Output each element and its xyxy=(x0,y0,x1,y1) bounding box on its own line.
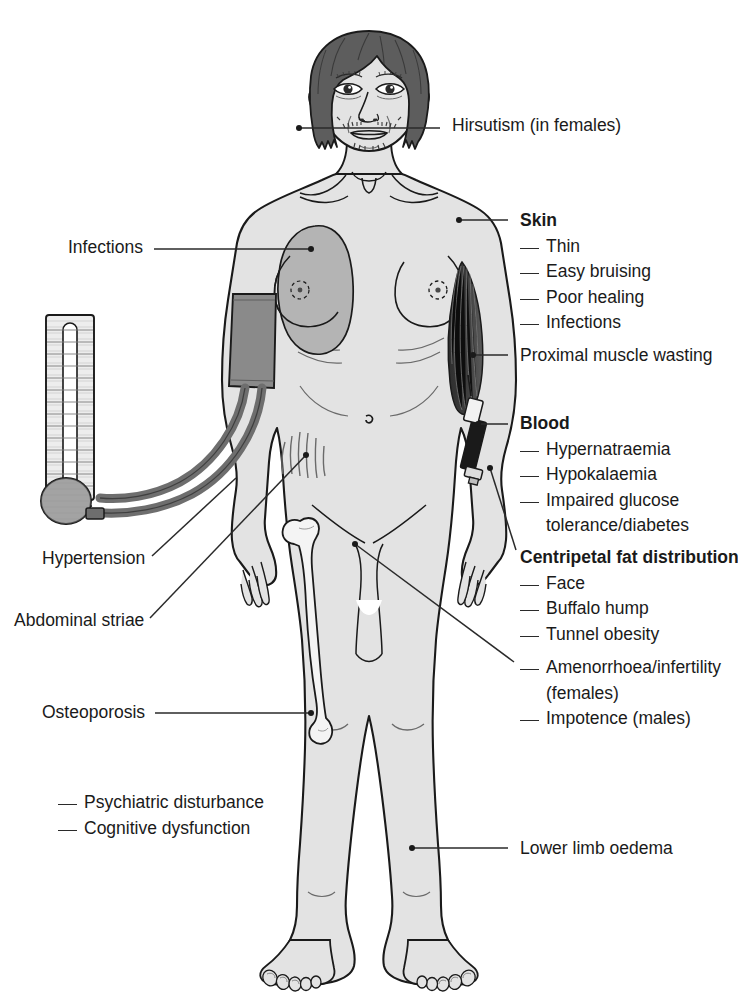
blood-pressure-cuff xyxy=(229,294,276,388)
dash-icon xyxy=(58,830,77,831)
label-hypertension-text: Hypertension xyxy=(42,548,145,568)
label-blood-item-3: tolerance/diabetes xyxy=(520,513,689,539)
body-outline xyxy=(222,35,516,985)
label-centripetal-fat-item-2: Tunnel obesity xyxy=(520,622,738,648)
feet xyxy=(260,940,478,992)
label-blood-item-1: Hypokalaemia xyxy=(520,462,689,488)
label-amenorrhoea-item-1: (females) xyxy=(520,681,721,707)
dash-icon xyxy=(520,502,539,503)
label-group-blood: Blood Hypernatraemia Hypokalaemia Impair… xyxy=(520,411,689,539)
label-hypertension: Hypertension xyxy=(42,546,145,571)
label-lower-limb-oedema-text: Lower limb oedema xyxy=(520,838,673,858)
label-neuropsychiatric-item-1: Cognitive dysfunction xyxy=(58,816,264,842)
label-group-amenorrhoea-impotence: Amenorrhoea/infertility (females) Impote… xyxy=(520,655,721,732)
dash-icon xyxy=(520,720,539,721)
label-group-neuropsychiatric: Psychiatric disturbance Cognitive dysfun… xyxy=(58,790,264,841)
label-hirsutism-text: Hirsutism (in females) xyxy=(452,115,621,135)
dash-icon xyxy=(520,299,539,300)
label-osteoporosis-text: Osteoporosis xyxy=(42,702,145,722)
label-hirsutism: Hirsutism (in females) xyxy=(452,113,621,138)
diagram-page: Hirsutism (in females) Skin Thin Easy br… xyxy=(0,0,738,1006)
dash-icon xyxy=(520,669,539,670)
dash-icon xyxy=(520,248,539,249)
label-skin-item-3: Infections xyxy=(520,310,651,336)
label-centripetal-fat-item-1: Buffalo hump xyxy=(520,596,738,622)
label-proximal-muscle-wasting-text: Proximal muscle wasting xyxy=(520,345,713,365)
label-centripetal-fat-item-0: Face xyxy=(520,571,738,597)
label-blood-item-2: Impaired glucose xyxy=(520,488,689,514)
label-osteoporosis: Osteoporosis xyxy=(42,700,145,725)
label-neuropsychiatric-item-0: Psychiatric disturbance xyxy=(58,790,264,816)
label-lower-limb-oedema: Lower limb oedema xyxy=(520,836,673,861)
dash-icon xyxy=(520,273,539,274)
dash-icon xyxy=(520,451,539,452)
dash-icon xyxy=(520,324,539,325)
label-blood-item-0: Hypernatraemia xyxy=(520,437,689,463)
dash-icon xyxy=(520,476,539,477)
dash-icon xyxy=(58,804,77,805)
dash-icon xyxy=(520,585,539,586)
label-abdominal-striae-text: Abdominal striae xyxy=(14,610,144,630)
label-skin-item-2: Poor healing xyxy=(520,285,651,311)
label-abdominal-striae: Abdominal striae xyxy=(14,608,144,633)
label-infections-text: Infections xyxy=(68,237,143,257)
label-skin-item-0: Thin xyxy=(520,234,651,260)
dash-icon xyxy=(520,636,539,637)
label-centripetal-fat-heading: Centripetal fat distribution xyxy=(520,545,738,571)
label-skin-heading: Skin xyxy=(520,208,651,234)
label-amenorrhoea-item-2: Impotence (males) xyxy=(520,706,721,732)
label-blood-heading: Blood xyxy=(520,411,689,437)
label-group-skin: Skin Thin Easy bruising Poor healing Inf… xyxy=(520,208,651,336)
label-amenorrhoea-item-0: Amenorrhoea/infertility xyxy=(520,655,721,681)
label-skin-item-1: Easy bruising xyxy=(520,259,651,285)
label-proximal-muscle-wasting: Proximal muscle wasting xyxy=(520,343,713,368)
dash-icon xyxy=(520,610,539,611)
label-group-centripetal-fat-distribution: Centripetal fat distribution Face Buffal… xyxy=(520,545,738,647)
label-infections: Infections xyxy=(68,235,143,260)
